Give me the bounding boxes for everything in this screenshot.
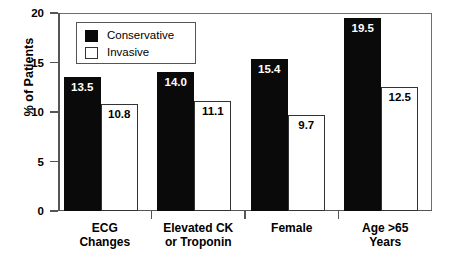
bar-value-label: 19.5 bbox=[345, 22, 380, 34]
y-tick-label-5: 5 bbox=[0, 156, 44, 168]
y-axis-line bbox=[58, 13, 60, 211]
y-tick-label-20: 20 bbox=[0, 7, 44, 19]
bar-conservative-3: 19.5 bbox=[344, 18, 381, 211]
y-tick-10 bbox=[50, 111, 58, 113]
bar-value-label: 14.0 bbox=[158, 76, 193, 88]
open-square-icon bbox=[85, 47, 98, 59]
legend-item-conservative: Conservative bbox=[85, 27, 195, 44]
x-axis-group-label-1: Elevated CK or Troponin bbox=[152, 221, 246, 249]
filled-square-icon bbox=[85, 30, 98, 42]
x-tick-2 bbox=[244, 211, 246, 219]
x-axis-group-label-2: Female bbox=[245, 221, 339, 235]
y-tick-label-15: 15 bbox=[0, 57, 44, 69]
bar-conservative-0: 13.5 bbox=[64, 77, 101, 211]
y-tick-5 bbox=[50, 161, 58, 163]
bar-value-label: 10.8 bbox=[102, 108, 137, 120]
y-tick-20 bbox=[50, 12, 58, 14]
y-tick-0 bbox=[50, 210, 58, 212]
bar-invasive-2: 9.7 bbox=[288, 115, 325, 211]
bar-conservative-1: 14.0 bbox=[157, 72, 194, 211]
y-tick-15 bbox=[50, 62, 58, 64]
legend-item-invasive: Invasive bbox=[85, 44, 195, 61]
bar-chart: % of Patients 05101520 13.510.814.011.11… bbox=[0, 0, 455, 259]
y-tick-label-10: 10 bbox=[0, 106, 44, 118]
bar-invasive-3: 12.5 bbox=[381, 87, 418, 211]
bar-value-label: 12.5 bbox=[382, 91, 417, 103]
bar-value-label: 9.7 bbox=[289, 119, 324, 131]
bar-value-label: 11.1 bbox=[195, 105, 230, 117]
bar-conservative-2: 15.4 bbox=[251, 59, 288, 211]
y-tick-label-0: 0 bbox=[0, 205, 44, 217]
bar-value-label: 13.5 bbox=[65, 81, 100, 93]
y-axis-title: % of Patients bbox=[22, 12, 36, 142]
bar-invasive-0: 10.8 bbox=[101, 104, 138, 211]
x-axis-group-label-3: Age >65 Years bbox=[339, 221, 433, 249]
legend-label-conservative: Conservative bbox=[107, 29, 174, 42]
x-axis-group-label-0: ECG Changes bbox=[58, 221, 152, 249]
bar-value-label: 15.4 bbox=[252, 63, 287, 75]
bar-invasive-1: 11.1 bbox=[194, 101, 231, 211]
x-tick-1 bbox=[151, 211, 153, 219]
legend-label-invasive: Invasive bbox=[107, 46, 149, 59]
x-tick-3 bbox=[338, 211, 340, 219]
legend: Conservative Invasive bbox=[76, 22, 196, 64]
